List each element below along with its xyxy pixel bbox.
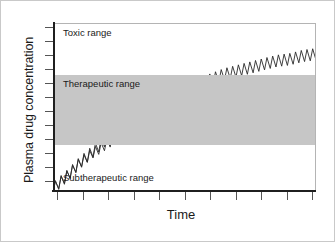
x-axis-tick — [57, 192, 58, 200]
y-axis-tick — [45, 111, 53, 112]
plot-area: Toxic range Therapeutic range Subtherape… — [53, 23, 316, 191]
y-axis-line — [53, 22, 55, 192]
x-axis-tick — [83, 192, 84, 200]
pharmacokinetics-figure: Plasma drug concentration Toxic range Th… — [0, 0, 335, 242]
y-axis-tick — [45, 167, 53, 168]
x-axis-tick — [312, 192, 313, 200]
y-axis-title: Plasma drug concentration — [22, 20, 36, 200]
x-axis-tick — [261, 192, 262, 200]
x-axis-tick — [134, 192, 135, 200]
y-axis-tick — [45, 69, 53, 70]
x-axis-tick — [185, 192, 186, 200]
y-axis-tick — [45, 125, 53, 126]
y-axis-tick — [45, 153, 53, 154]
x-axis-title: Time — [46, 207, 316, 222]
y-axis-tick — [45, 55, 53, 56]
y-axis-tick — [45, 41, 53, 42]
zone-label-therapeutic: Therapeutic range — [63, 78, 140, 89]
zone-label-toxic: Toxic range — [63, 27, 112, 38]
x-axis-tick — [159, 192, 160, 200]
x-axis-tick — [287, 192, 288, 200]
y-axis-tick — [45, 97, 53, 98]
x-axis-tick — [210, 192, 211, 200]
x-axis-tick — [236, 192, 237, 200]
y-axis-tick — [45, 83, 53, 84]
x-axis-tick — [108, 192, 109, 200]
zone-label-subtherapeutic: Subtherapeutic range — [63, 172, 154, 183]
y-axis-tick — [45, 181, 53, 182]
y-axis-tick — [45, 139, 53, 140]
y-axis-tick — [45, 27, 53, 28]
